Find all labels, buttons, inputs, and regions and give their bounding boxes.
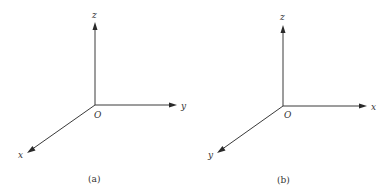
origin-label-a: O [94,110,102,120]
y-arrowhead-b [217,146,226,153]
x-axis-a [31,105,95,150]
panel-b: z x y O (b) [207,12,376,185]
caption-a: (a) [88,174,100,184]
coordinate-systems-diagram: z y x O (a) z x y O (b) [0,0,391,196]
x-axis-label-a: x [18,150,23,160]
x-arrowhead-b [359,104,367,109]
z-axis-label-b: z [279,12,285,22]
y-axis-label-b: y [207,150,214,160]
z-arrowhead-b [281,25,286,33]
z-axis-label-a: z [91,10,97,20]
panel-a: z y x O (a) [18,10,187,184]
y-arrowhead-a [169,103,177,108]
caption-b: (b) [277,175,290,185]
x-axis-label-b: x [371,102,376,112]
x-arrowhead-a [27,146,36,153]
origin-label-b: O [284,110,292,120]
y-axis-b [221,106,283,150]
y-axis-label-a: y [180,101,187,111]
z-arrowhead-a [93,22,98,30]
